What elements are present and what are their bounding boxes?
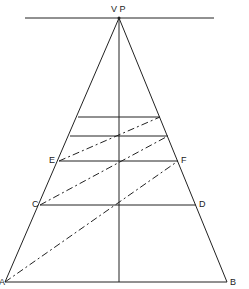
label-d: D xyxy=(199,199,206,209)
perspective-diagram: V P A B C D E F xyxy=(0,0,249,289)
label-a: A xyxy=(0,277,5,287)
label-vp: V P xyxy=(111,4,126,14)
left-orthogonal-line xyxy=(5,18,119,282)
label-f: F xyxy=(181,155,187,165)
right-orthogonal-line xyxy=(119,18,227,282)
label-c: C xyxy=(32,199,39,209)
diagonal-c-to-4 xyxy=(40,136,168,205)
diagonal-e-to-5 xyxy=(59,117,160,161)
label-b: B xyxy=(230,277,236,287)
label-e: E xyxy=(49,155,55,165)
